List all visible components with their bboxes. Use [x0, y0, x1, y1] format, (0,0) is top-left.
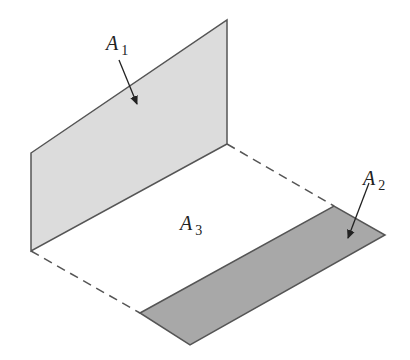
label-a1: A1: [104, 32, 128, 58]
label-a3-sub: 3: [195, 223, 202, 238]
label-a3: A3: [178, 212, 202, 238]
label-a1-sub: 1: [121, 43, 128, 58]
dashed-edge-bottom: [31, 251, 140, 313]
label-a2: A2: [361, 167, 385, 193]
label-a1-main: A: [104, 32, 119, 54]
label-a3-main: A: [178, 212, 193, 234]
vertical-panel-a1: [31, 20, 227, 251]
floor-panel-a2: [140, 206, 385, 345]
area-diagram: A1 A3 A2: [0, 0, 410, 360]
dashed-edge-top: [227, 144, 334, 206]
label-a2-main: A: [361, 167, 376, 189]
label-a2-sub: 2: [378, 178, 385, 193]
